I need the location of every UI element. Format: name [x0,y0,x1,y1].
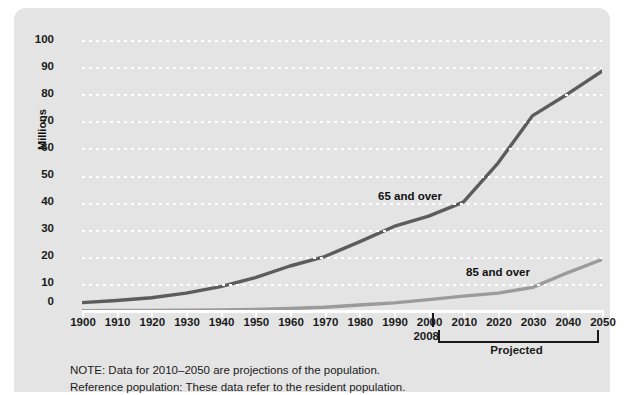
y-tick-label: 80 [14,88,54,100]
gridline [82,40,602,42]
y-tick-label: 100 [14,34,54,46]
y-tick-label: 70 [14,115,54,127]
note-line-1: NOTE: Data for 2010–2050 are projections… [70,362,590,379]
chart-panel: Millions 100 90 80 70 60 50 40 30 20 10 … [14,8,610,392]
gridline [82,94,602,96]
gridline [82,67,602,69]
series-label-65-and-over: 65 and over [378,190,442,202]
gridline [82,176,602,178]
note-line-2: Reference population: These data refer t… [70,379,590,395]
year-2008-label: 2008 [399,330,439,342]
series-label-85-and-over: 85 and over [466,266,530,278]
chart-notes: NOTE: Data for 2010–2050 are projections… [70,362,590,395]
gridline [82,230,602,232]
gridline [82,121,602,123]
gridline [82,257,602,259]
y-tick-label: 90 [14,61,54,73]
y-tick-label: 60 [14,142,54,154]
y-tick-label: 10 [14,277,54,289]
x-axis-line [82,310,604,313]
projected-label: Projected [438,344,595,356]
gridline [82,148,602,150]
y-tick-label: 30 [14,223,54,235]
year-2008-divider [432,313,434,327]
y-tick-label: 50 [14,169,54,181]
y-tick-label: 0 [14,296,54,308]
gridline [82,284,602,286]
y-tick-label: 40 [14,196,54,208]
projected-bracket [438,330,599,343]
x-tick-label: 2050 [581,316,625,329]
y-tick-label: 20 [14,250,54,262]
gridline [82,203,602,205]
